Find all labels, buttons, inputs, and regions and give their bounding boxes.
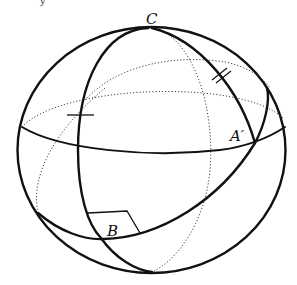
sphere-outline	[18, 27, 286, 273]
meridian-C-to-A	[152, 28, 255, 143]
label-C: C	[146, 10, 158, 28]
sphere-diagram: y C A′ B	[0, 0, 297, 285]
cropped-text-fragment: y	[39, 0, 46, 6]
back-circle-dotted	[85, 60, 270, 100]
left-back-arc-dotted	[37, 88, 105, 213]
label-A-prime: A′	[228, 127, 245, 145]
equator-back-dotted	[22, 91, 283, 127]
label-B: B	[106, 222, 118, 240]
equator-front	[22, 127, 285, 153]
great-circle-BA	[38, 88, 268, 239]
